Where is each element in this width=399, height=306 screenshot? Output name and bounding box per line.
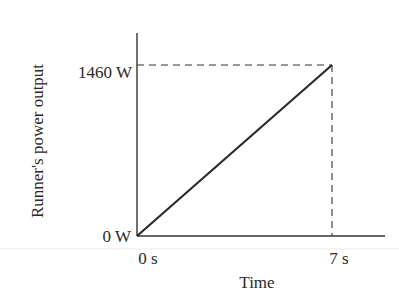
y-tick-1460: 1460 W <box>78 63 133 82</box>
power-line <box>137 65 332 236</box>
y-tick-0: 0 W <box>103 227 132 246</box>
x-tick-7: 7 s <box>329 249 348 268</box>
x-axis-title: Time <box>239 273 274 292</box>
x-tick-0: 0 s <box>138 249 157 268</box>
y-axis-title: Runner's power output <box>28 64 47 218</box>
chart: 1460 W 0 W 0 s 7 s Time Runner's power o… <box>0 0 399 306</box>
